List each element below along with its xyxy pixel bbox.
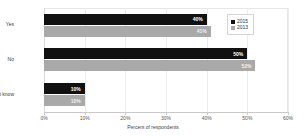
bar-row: 10% [44, 95, 288, 106]
bar-value-label: 41% [197, 29, 207, 34]
bar-2013-dontknow[interactable]: 10% [44, 95, 85, 106]
bar-row: 50% [44, 48, 288, 59]
category-label: No [8, 57, 14, 62]
bar-2015-no[interactable]: 50% [44, 48, 247, 59]
bar-2013-no[interactable]: 52% [44, 60, 255, 71]
bar-value-label: 50% [233, 51, 243, 56]
bar-row: 52% [44, 60, 288, 71]
bar-2013-yes[interactable]: 41% [44, 26, 211, 37]
legend-swatch-2015-icon [231, 20, 235, 24]
x-tick-label: 20% [120, 116, 130, 121]
x-tick-label: 60% [283, 116, 293, 121]
legend-swatch-2013-icon [231, 26, 235, 30]
bar-value-label: 10% [71, 98, 81, 103]
category-label: Yes [6, 22, 14, 27]
bar-row: 10% [44, 83, 288, 94]
x-axis-title: Percent of respondents [0, 125, 306, 130]
bar-chart: 40%41%50%52%10%10% YesNoDon't know 0%10%… [0, 0, 306, 136]
bar-value-label: 10% [71, 86, 81, 91]
legend-label-2013: 2013 [237, 25, 248, 30]
gridline [288, 8, 289, 112]
legend: 2015 2013 [227, 14, 254, 35]
bar-value-label: 52% [241, 63, 251, 68]
legend-item-2013[interactable]: 2013 [231, 25, 248, 30]
x-tick-label: 40% [202, 116, 212, 121]
bar-value-label: 40% [193, 17, 203, 22]
x-tick-label: 30% [161, 116, 171, 121]
bar-2015-dontknow[interactable]: 10% [44, 83, 85, 94]
bar-group: 50%52% [44, 43, 288, 78]
category-label: Don't know [0, 92, 14, 97]
bar-2015-yes[interactable]: 40% [44, 14, 207, 25]
x-tick-label: 0% [40, 116, 47, 121]
bar-group: 10%10% [44, 77, 288, 112]
x-tick-label: 50% [242, 116, 252, 121]
x-tick-label: 10% [80, 116, 90, 121]
